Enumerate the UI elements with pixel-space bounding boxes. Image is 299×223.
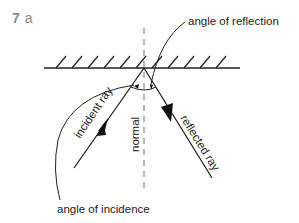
reflected-ray — [144, 68, 212, 178]
reflection-diagram: angle of reflection angle of incidence i… — [0, 0, 299, 223]
reflection-angle-arc — [144, 87, 156, 90]
reflected-arrow-icon — [161, 103, 173, 122]
label-angle-of-incidence: angle of incidence — [57, 203, 150, 215]
mirror — [44, 56, 240, 68]
reflection-leader-line — [151, 22, 185, 84]
label-normal: normal — [129, 117, 141, 152]
label-reflected-ray: reflected ray — [178, 113, 222, 173]
label-incident-ray: incident ray — [72, 84, 115, 140]
label-angle-of-reflection: angle of reflection — [188, 15, 279, 27]
